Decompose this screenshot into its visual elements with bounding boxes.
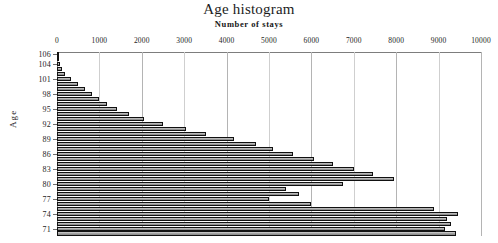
bar	[57, 157, 314, 161]
bar	[57, 187, 286, 191]
bar	[57, 207, 434, 211]
x-axis-tick-label: 7000	[346, 36, 362, 45]
y-axis-tick-label: 95	[43, 105, 51, 114]
y-axis-tick-label: 74	[43, 209, 51, 218]
bar	[57, 202, 311, 206]
x-axis-tick-label: 5000	[261, 36, 277, 45]
y-axis-tick-label: 104	[38, 60, 51, 69]
y-axis-tick-label: 83	[43, 164, 51, 173]
x-axis-tick-label: 6000	[303, 36, 319, 45]
bar	[57, 117, 144, 121]
plot-area	[57, 52, 481, 236]
y-axis-tick-label: 89	[43, 135, 51, 144]
bar	[57, 52, 59, 56]
y-axis-tick-label: 106	[38, 50, 51, 59]
gridline	[439, 52, 440, 236]
bar	[57, 137, 234, 141]
bar	[57, 192, 299, 196]
bar	[57, 132, 206, 136]
bar	[57, 112, 129, 116]
x-axis-tick-label: 9000	[431, 36, 447, 45]
bar	[57, 122, 163, 126]
bar	[57, 87, 85, 91]
bar	[57, 107, 117, 111]
bar	[57, 231, 456, 235]
bar	[57, 217, 447, 221]
y-axis-tick-label: 77	[43, 194, 51, 203]
bar	[57, 82, 78, 86]
x-axis-tick-label: 2000	[134, 36, 150, 45]
bar	[57, 142, 256, 146]
bar	[57, 97, 99, 101]
bar	[57, 197, 269, 201]
y-axis-tick-label: 92	[43, 120, 51, 129]
bar	[57, 182, 343, 186]
gridline	[481, 52, 482, 236]
bar	[57, 57, 59, 61]
bar	[57, 227, 445, 231]
bar	[57, 172, 373, 176]
y-axis-tick-label: 98	[43, 90, 51, 99]
x-axis-tick-label: 4000	[219, 36, 235, 45]
chart-title: Age histogram	[0, 1, 498, 18]
bar	[57, 77, 71, 81]
bar	[57, 167, 354, 171]
bar	[57, 67, 62, 71]
bar	[57, 222, 451, 226]
bar	[57, 147, 273, 151]
bar	[57, 177, 394, 181]
chart-subtitle: Number of stays	[0, 19, 498, 29]
y-axis-title: Age	[8, 110, 18, 128]
x-axis-tick-label: 8000	[388, 36, 404, 45]
y-axis-tick-label: 80	[43, 179, 51, 188]
chart-root: Age histogram Number of stays Age 010002…	[0, 0, 498, 243]
x-axis-tick-label: 1000	[91, 36, 107, 45]
y-axis-tick-label: 86	[43, 149, 51, 158]
x-axis-tick-label: 10000	[471, 36, 491, 45]
y-axis-tick-label: 71	[43, 224, 51, 233]
bar	[57, 102, 107, 106]
y-axis-tick-label: 101	[38, 75, 51, 84]
bar	[57, 212, 458, 216]
bar	[57, 62, 60, 66]
x-axis-tick-label: 0	[55, 36, 59, 45]
bar	[57, 162, 333, 166]
bar	[57, 72, 65, 76]
bar	[57, 92, 92, 96]
bar	[57, 152, 293, 156]
bar	[57, 127, 186, 131]
x-axis-tick-label: 3000	[176, 36, 192, 45]
